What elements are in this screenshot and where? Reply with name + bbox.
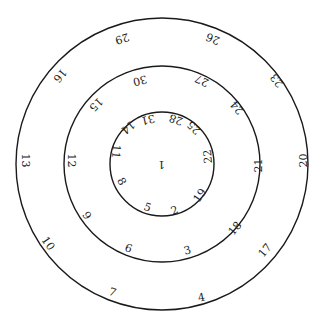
- ring-number-label: 30: [132, 73, 148, 87]
- ring-number-label: 11: [110, 144, 122, 159]
- ring-number-label: 4: [196, 291, 205, 303]
- ring-number-label: 29: [114, 31, 131, 46]
- ring-number-label: 31: [140, 112, 156, 126]
- ring-number-label: 21: [253, 158, 264, 172]
- dial-diagram: 2926162313201017743027152412219186331281…: [0, 0, 327, 323]
- ring-number-label: 12: [66, 153, 77, 167]
- ring-number-label: 22: [202, 149, 214, 164]
- center-label: 1: [158, 159, 165, 170]
- ring-number-label: 20: [298, 153, 309, 167]
- ring-number-label: 13: [20, 153, 31, 167]
